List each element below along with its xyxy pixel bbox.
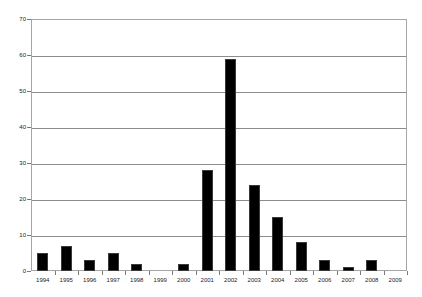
y-axis-tick-label: 10 — [2, 232, 26, 238]
x-axis-tick-label: 1994 — [31, 277, 55, 283]
x-axis-tick-label: 1998 — [125, 277, 149, 283]
x-axis-tick-label: 2006 — [313, 277, 337, 283]
bar-chart: 010203040506070 199419951996199719981999… — [0, 0, 422, 297]
y-axis: 010203040506070 — [0, 0, 26, 297]
x-axis-tick-label: 2008 — [360, 277, 384, 283]
x-axis-tick-mark — [337, 271, 338, 275]
x-axis-tick-mark — [78, 271, 79, 275]
x-axis-tick-label: 2000 — [172, 277, 196, 283]
y-axis-tick-label: 70 — [2, 16, 26, 22]
bar — [296, 242, 307, 271]
x-axis-ticks — [31, 271, 407, 275]
x-axis-tick-mark — [384, 271, 385, 275]
y-axis-tick-label: 20 — [2, 196, 26, 202]
bar — [37, 253, 48, 271]
x-axis-tick-mark — [290, 271, 291, 275]
x-axis-tick-label: 1996 — [78, 277, 102, 283]
x-axis-tick-mark — [243, 271, 244, 275]
x-axis-tick-label: 2003 — [242, 277, 266, 283]
x-axis-tick-mark — [172, 271, 173, 275]
bar — [178, 264, 189, 271]
x-axis-tick-mark — [196, 271, 197, 275]
x-axis-tick-mark — [55, 271, 56, 275]
bar — [366, 260, 377, 271]
x-axis-tick-label: 2004 — [266, 277, 290, 283]
y-axis-tick-label: 40 — [2, 124, 26, 130]
bar — [249, 185, 260, 271]
bar — [319, 260, 330, 271]
bar — [61, 246, 72, 271]
bar — [202, 170, 213, 271]
bar — [84, 260, 95, 271]
bar — [131, 264, 142, 271]
x-axis-tick-label: 1997 — [101, 277, 125, 283]
bar — [108, 253, 119, 271]
x-axis-tick-label: 2005 — [289, 277, 313, 283]
bar-series — [31, 19, 407, 271]
y-axis-tick-label: 30 — [2, 160, 26, 166]
x-axis-tick-mark — [407, 271, 408, 275]
x-axis-tick-label: 1999 — [148, 277, 172, 283]
y-axis-tick-label: 0 — [2, 268, 26, 274]
x-axis-tick-label: 1995 — [54, 277, 78, 283]
x-axis-tick-label: 2001 — [195, 277, 219, 283]
x-axis-tick-label: 2009 — [383, 277, 407, 283]
x-axis-tick-label: 2007 — [336, 277, 360, 283]
x-axis-tick-mark — [125, 271, 126, 275]
x-axis-tick-mark — [266, 271, 267, 275]
x-axis-tick-mark — [219, 271, 220, 275]
x-axis-tick-mark — [102, 271, 103, 275]
x-axis-tick-mark — [313, 271, 314, 275]
x-axis-tick-label: 2002 — [219, 277, 243, 283]
x-axis-tick-mark — [360, 271, 361, 275]
x-axis-tick-mark — [149, 271, 150, 275]
bar — [225, 59, 236, 271]
y-axis-tick-label: 60 — [2, 52, 26, 58]
y-axis-tick-label: 50 — [2, 88, 26, 94]
x-axis-labels: 1994199519961997199819992000200120022003… — [31, 277, 407, 291]
bar — [272, 217, 283, 271]
